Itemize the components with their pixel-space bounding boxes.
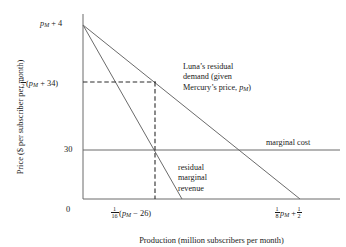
residual-marginal-revenue-line <box>83 25 182 199</box>
origin-label: 0 <box>66 205 70 215</box>
annotation-marginal-cost: marginal cost <box>266 138 310 148</box>
x-tick-quantity-tail: − 26) <box>133 209 151 218</box>
x-tick-quantity-fraction: 1 16 <box>111 206 119 220</box>
x-axis-title: Production (million subscribers per mont… <box>139 236 284 245</box>
y-tick-mid-fraction: 1 2 <box>21 76 26 90</box>
y-tick-top-sub: M <box>44 22 49 28</box>
y-tick-mid-tail: + 34) <box>40 79 58 88</box>
annotation-residual-demand-line3-sub: M <box>243 86 248 92</box>
y-axis-title-wrapper: Price ($ per subscriber per month) <box>9 17 27 217</box>
annotation-residual-demand-line2: demand (given <box>183 72 251 82</box>
x-tick-quantity-denominator: 16 <box>111 212 119 219</box>
x-tick-intercept-sub: M <box>284 212 289 218</box>
annotation-marginal-revenue: residual marginal revenue <box>178 163 207 194</box>
annotation-residual-demand-line3-text: Mercury’s price, <box>183 83 239 92</box>
x-tick-intercept-fraction-one: 1 8 <box>275 206 280 220</box>
annotation-marginal-revenue-line2: marginal <box>178 173 207 183</box>
y-tick-mid-sub: M <box>33 82 38 88</box>
residual-demand-figure: Price ($ per subscriber per month) Produ… <box>0 0 346 247</box>
y-tick-top-tail: + 4 <box>51 19 62 28</box>
x-tick-quantity-sub: M <box>126 212 131 218</box>
x-tick-demand-intercept: 1 8 pM + 1 2 <box>274 206 302 220</box>
annotation-marginal-revenue-line3: revenue <box>178 184 207 194</box>
x-tick-quantity: 1 16 (pM − 26) <box>110 206 151 220</box>
y-tick-mid-denominator: 2 <box>21 82 26 89</box>
x-tick-intercept-fraction-two: 1 2 <box>297 206 302 220</box>
y-tick-top: pM + 4 <box>40 19 62 30</box>
x-tick-intercept-f2-denominator: 2 <box>297 212 302 219</box>
y-tick-mid: 1 2 (pM + 34) <box>20 76 58 90</box>
x-tick-intercept-f1-denominator: 8 <box>275 212 280 219</box>
y-tick-marginal-cost: 30 <box>64 145 72 155</box>
annotation-residual-demand-line3: Mercury’s price, pM) <box>183 83 251 94</box>
annotation-residual-demand: Luna’s residual demand (given Mercury’s … <box>183 62 251 94</box>
x-axis-title-wrapper: Production (million subscribers per mont… <box>83 229 340 247</box>
x-tick-intercept-plus: + <box>291 209 296 218</box>
annotation-residual-demand-line1: Luna’s residual <box>183 62 251 72</box>
annotation-marginal-revenue-line1: residual <box>178 163 207 173</box>
